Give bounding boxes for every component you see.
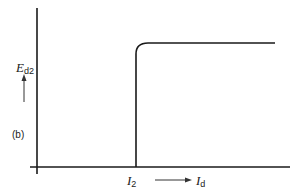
step-curve: [136, 43, 275, 167]
diagram: Ed2 (b) I2 Id: [0, 0, 290, 190]
x-axis-label: Id: [196, 174, 205, 189]
y-direction-arrow-icon: [22, 74, 27, 102]
diagram-svg: [0, 0, 290, 190]
y-axis-label: Ed2: [16, 61, 34, 76]
threshold-label: I2: [127, 174, 136, 189]
x-direction-arrow-icon: [155, 178, 192, 183]
panel-label: (b): [12, 130, 24, 140]
